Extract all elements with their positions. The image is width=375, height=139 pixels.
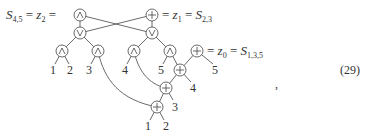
label-top-right: = z1 = S2,3 — [162, 7, 212, 24]
leaf-input-label: 5 — [158, 63, 164, 77]
and-gate-node — [74, 9, 86, 21]
or-gate-node — [74, 27, 86, 39]
xor-gate-node — [151, 101, 163, 113]
xor-gate-node — [174, 64, 186, 76]
and-gate-node — [92, 45, 104, 57]
leaf-input-label: 4 — [122, 63, 128, 77]
or-gate-node — [146, 27, 158, 39]
label-top-left: S4,5 = z2 = — [6, 7, 56, 24]
and-gate-node — [164, 45, 176, 57]
leaf-input-label: 4 — [190, 81, 196, 95]
label-mid-right: = z0 = S1,3,5 — [207, 43, 263, 60]
circuit-diagram: 1234554312 S4,5 = z2 = = z1 = S2,3 = z0 … — [0, 0, 375, 139]
xor-gate-node — [160, 82, 172, 94]
xor-gate-node — [191, 45, 203, 57]
xor-gate-node — [146, 9, 158, 21]
leaf-input-label: 2 — [67, 63, 73, 77]
leaf-input-label: 5 — [212, 63, 218, 77]
and-gate-node — [128, 45, 140, 57]
leaf-input-label: 2 — [163, 119, 169, 133]
leaf-input-label: 1 — [145, 119, 151, 133]
leaf-input-label: 3 — [86, 63, 92, 77]
trailing-comma: , — [275, 77, 278, 91]
leaf-input-label: 1 — [50, 63, 56, 77]
equation-number: (29) — [340, 63, 360, 77]
leaf-input-label: 3 — [172, 100, 178, 114]
and-gate-node — [56, 45, 68, 57]
